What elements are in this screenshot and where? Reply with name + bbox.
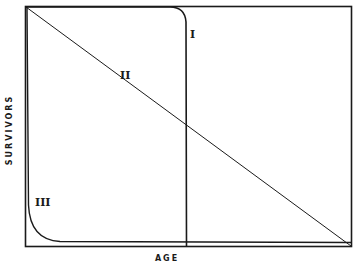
curve-i-label: I xyxy=(190,28,195,41)
curve-i xyxy=(26,7,187,246)
curve-iii-label: III xyxy=(35,196,50,209)
curve-iii xyxy=(27,7,351,243)
y-axis-label: SURVIVORS xyxy=(5,95,14,165)
x-axis-label: AGE xyxy=(155,254,179,263)
curve-ii xyxy=(26,7,351,246)
curve-ii-label: II xyxy=(120,69,130,82)
survivorship-chart: I II III SURVIVORS AGE xyxy=(0,0,357,269)
